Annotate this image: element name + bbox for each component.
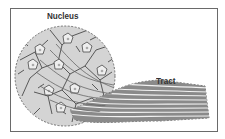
nucleus-tract-diagram [0,0,225,139]
tract-label: Tract [156,76,175,86]
nucleus-label: Nucleus [47,11,79,21]
